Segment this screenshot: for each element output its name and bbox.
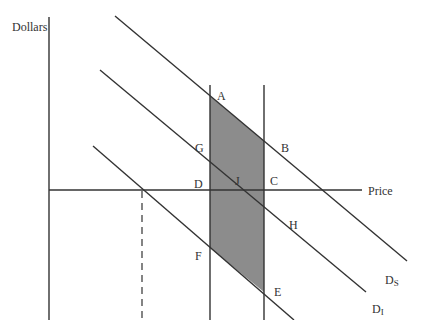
point-label-e: E: [274, 285, 281, 299]
y-axis-label: Dollars: [12, 20, 48, 34]
x-axis-label: Price: [368, 184, 393, 198]
point-label-j: J: [235, 174, 240, 188]
point-label-d: D: [194, 177, 203, 191]
point-label-a: A: [217, 89, 226, 103]
curve-label-di: DI: [372, 302, 384, 317]
curve-label-ds: DS: [385, 273, 399, 288]
economics-diagram: Dollars Price A B G D J C H F E DS DI: [0, 0, 433, 320]
point-label-f: F: [195, 249, 202, 263]
point-label-g: G: [195, 141, 204, 155]
point-label-h: H: [289, 218, 298, 232]
shaded-region: [210, 96, 264, 292]
point-label-b: B: [281, 141, 289, 155]
point-label-c: C: [270, 174, 278, 188]
